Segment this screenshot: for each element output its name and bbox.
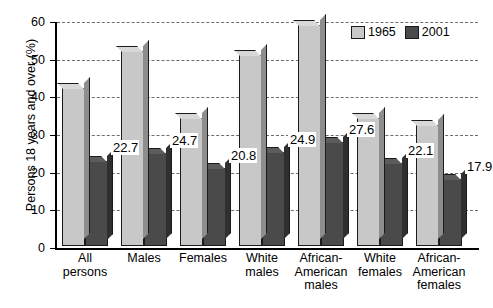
- bar-value-label: 20.8: [229, 148, 257, 163]
- y-axis-tick-label: 30: [0, 129, 45, 142]
- y-axis-tick-label: 20: [0, 166, 45, 179]
- bar-top-face: [116, 46, 143, 52]
- bar-side-face: [261, 44, 267, 239]
- bar-top-face: [175, 113, 202, 119]
- legend-swatch-icon: [351, 26, 365, 39]
- x-axis-category-label: African- American females: [395, 252, 483, 293]
- bar-value-label: 17.9: [465, 159, 493, 174]
- bar-side-face: [284, 141, 290, 239]
- y-axis-tick-label: 60: [0, 16, 45, 29]
- legend-swatch-icon: [405, 26, 419, 39]
- bar-side-face: [461, 168, 467, 239]
- plot-area: 22.724.720.824.927.622.117.9: [55, 22, 478, 248]
- bar-1965-5: [357, 118, 380, 246]
- bar-value-label: 27.6: [347, 122, 375, 137]
- bar-side-face: [84, 77, 90, 239]
- bar-side-face: [166, 142, 172, 239]
- legend-item-1965: 1965: [351, 26, 396, 39]
- legend-label: 2001: [422, 26, 450, 39]
- bar-side-face: [107, 150, 113, 240]
- y-axis-tick-label: 10: [0, 204, 45, 217]
- bar-chart: Persons 18 years and over (%) 0102030405…: [0, 0, 493, 308]
- bar-side-face: [438, 114, 444, 239]
- bar-top-face: [411, 120, 438, 126]
- bar-top-face: [57, 83, 84, 89]
- bar-top-face: [293, 20, 320, 26]
- legend-item-2001: 2001: [405, 26, 450, 39]
- bar-1965-0: [62, 88, 85, 246]
- bar-side-face: [343, 131, 349, 239]
- y-axis-tick-label: 0: [0, 242, 45, 255]
- bar-side-face: [402, 152, 408, 239]
- bar-side-face: [320, 14, 326, 239]
- bar-top-face: [352, 113, 379, 119]
- bar-value-label: 22.1: [406, 143, 434, 158]
- x-axis-line: [55, 248, 479, 250]
- y-axis-tick-label: 40: [0, 91, 45, 104]
- bar-side-face: [225, 157, 231, 239]
- bar-value-label: 22.7: [111, 140, 139, 155]
- chart-legend: 1965 2001: [348, 24, 453, 41]
- gridline: [57, 22, 478, 23]
- bar-side-face: [143, 40, 149, 239]
- bar-value-label: 24.7: [170, 133, 198, 148]
- y-axis-tick-label: 50: [0, 53, 45, 66]
- y-axis-line: [55, 22, 57, 249]
- bar-side-face: [379, 107, 385, 239]
- bar-side-face: [202, 107, 208, 239]
- bar-value-label: 24.9: [288, 132, 316, 147]
- legend-label: 1965: [368, 26, 396, 39]
- bar-top-face: [234, 50, 261, 56]
